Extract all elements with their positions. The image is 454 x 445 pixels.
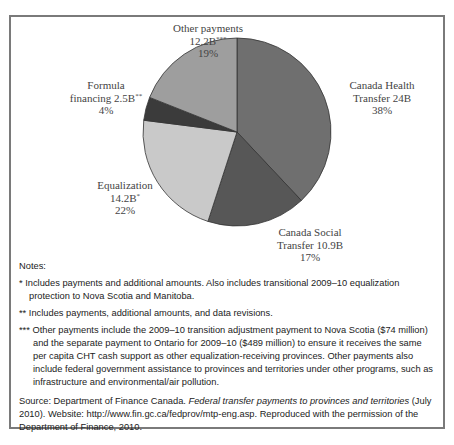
- label-cht-name: Canada Health: [332, 79, 432, 92]
- label-equalization-name: Equalization: [80, 179, 170, 192]
- note-1-mark: *: [19, 278, 23, 288]
- source-citation: Source: Department of Finance Canada. Fe…: [19, 395, 437, 434]
- note-3-mark: ***: [19, 325, 30, 335]
- label-other-payments-percent: 19%: [148, 47, 268, 60]
- footnote-mark: *: [137, 192, 141, 200]
- note-1-text: Includes payments and additional amounts…: [25, 278, 399, 301]
- label-formula-financing-name: Formula: [56, 79, 156, 92]
- label-formula-financing: Formula financing 2.5B** 4%: [56, 79, 156, 117]
- label-formula-financing-percent: 4%: [56, 104, 156, 117]
- footnote-mark: **: [135, 92, 142, 100]
- notes-heading: Notes:: [19, 260, 437, 273]
- label-canada-health-transfer: Canada Health Transfer 24B 38%: [332, 79, 432, 117]
- label-cht-value: Transfer 24B: [332, 92, 432, 105]
- footnote-mark: ***: [216, 35, 227, 43]
- label-cst-value: Transfer 10.9B: [255, 239, 365, 252]
- label-canada-social-transfer: Canada Social Transfer 10.9B 17%: [255, 226, 365, 264]
- label-equalization: Equalization 14.2B* 22%: [80, 179, 170, 217]
- label-other-payments: Other payments 12.2B*** 19%: [148, 22, 268, 60]
- label-equalization-value: 14.2B: [110, 192, 137, 204]
- label-other-payments-value: 12.2B: [189, 35, 216, 47]
- source-prefix: Source: Department of Finance Canada.: [19, 396, 189, 406]
- note-2: ** Includes payments, additional amounts…: [19, 307, 437, 320]
- label-other-payments-name: Other payments: [148, 22, 268, 35]
- note-1: * Includes payments and additional amoun…: [19, 277, 437, 303]
- pie-slices: [143, 38, 331, 226]
- note-2-mark: **: [19, 308, 26, 318]
- source-title: Federal transfer payments to provinces a…: [189, 396, 410, 406]
- notes-section: Notes: * Includes payments and additiona…: [19, 260, 437, 438]
- label-equalization-percent: 22%: [80, 204, 170, 217]
- label-cst-name: Canada Social: [255, 226, 365, 239]
- label-cht-percent: 38%: [332, 104, 432, 117]
- note-3-text: Other payments include the 2009–10 trans…: [32, 325, 433, 387]
- note-2-text: Includes payments, additional amounts, a…: [29, 308, 273, 318]
- note-3: *** Other payments include the 2009–10 t…: [19, 324, 437, 389]
- label-formula-financing-value: financing 2.5B: [70, 92, 135, 104]
